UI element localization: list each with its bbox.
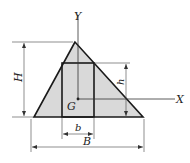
x-axis-label: X [175,93,185,106]
rect-width-label: b [75,122,81,133]
rect-height-label: h [115,79,126,85]
y-axis-label: Y [74,10,83,23]
centroid-label: G [67,100,76,113]
diagram-canvas: Y X G H h b B [0,0,190,163]
section-drawing: Y X G H h b B [0,0,190,163]
triangle-section [34,42,143,117]
total-height-label: H [12,72,25,83]
total-base-label: B [82,135,91,148]
centroid-point [77,98,80,101]
